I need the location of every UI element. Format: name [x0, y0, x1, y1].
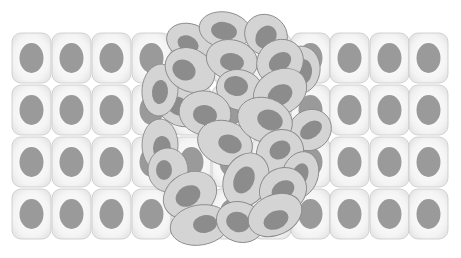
normal-cell — [12, 189, 51, 239]
nucleus — [417, 95, 441, 125]
normal-cell — [370, 85, 409, 135]
normal-cell — [409, 33, 448, 83]
normal-cell — [330, 33, 369, 83]
nucleus — [417, 147, 441, 177]
nucleus — [100, 43, 124, 73]
nucleus — [60, 199, 84, 229]
normal-cell — [92, 189, 131, 239]
nucleus — [378, 199, 402, 229]
normal-cell — [92, 33, 131, 83]
nucleus — [338, 147, 362, 177]
normal-cell — [92, 137, 131, 187]
normal-cell — [370, 189, 409, 239]
normal-cell — [52, 33, 91, 83]
normal-cell — [330, 137, 369, 187]
normal-cell — [409, 85, 448, 135]
nucleus — [100, 147, 124, 177]
nucleus — [338, 95, 362, 125]
tumor-nucleus — [156, 160, 172, 180]
normal-cell — [409, 137, 448, 187]
normal-cell — [52, 137, 91, 187]
normal-cell — [409, 189, 448, 239]
nucleus — [378, 95, 402, 125]
normal-cell — [12, 137, 51, 187]
nucleus — [100, 199, 124, 229]
normal-cell — [52, 189, 91, 239]
nucleus — [20, 199, 44, 229]
normal-cell — [12, 33, 51, 83]
normal-cell — [12, 85, 51, 135]
nucleus — [378, 43, 402, 73]
nucleus — [20, 147, 44, 177]
normal-cell — [330, 85, 369, 135]
nucleus — [417, 43, 441, 73]
normal-cell — [92, 85, 131, 135]
nucleus — [378, 147, 402, 177]
normal-cell — [370, 137, 409, 187]
nucleus — [338, 199, 362, 229]
normal-cell — [52, 85, 91, 135]
nucleus — [299, 199, 323, 229]
nucleus — [140, 199, 164, 229]
nucleus — [20, 95, 44, 125]
normal-cell — [330, 189, 369, 239]
normal-cell — [370, 33, 409, 83]
nucleus — [338, 43, 362, 73]
nucleus — [60, 95, 84, 125]
cell-illustration — [0, 0, 461, 258]
nucleus — [100, 95, 124, 125]
nucleus — [417, 199, 441, 229]
nucleus — [60, 43, 84, 73]
nucleus — [20, 43, 44, 73]
nucleus — [60, 147, 84, 177]
